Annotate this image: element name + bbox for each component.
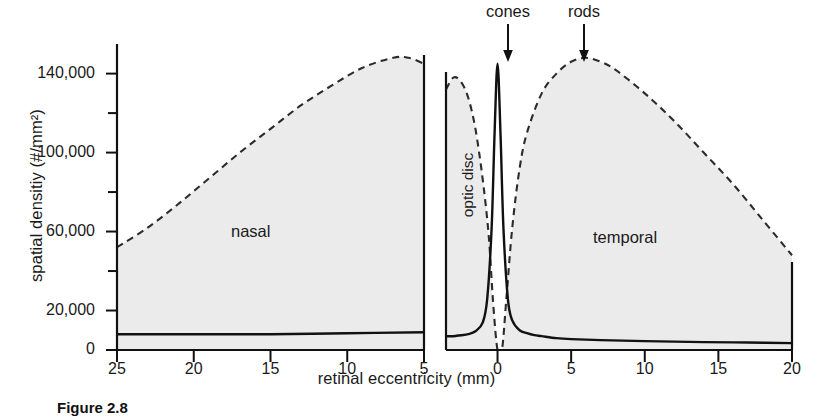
y-tick-label: 20,000 — [0, 301, 95, 319]
temporal-region-label: temporal — [593, 228, 657, 247]
y-tick-label: 60,000 — [0, 222, 95, 240]
cones-pointer-arrow — [503, 24, 513, 62]
y-axis — [106, 44, 117, 350]
rods-pointer-arrow — [579, 24, 589, 62]
y-tick-label: 140,000 — [0, 64, 95, 82]
figure-container: spatial densitiy (#/mm²) retinal eccentr… — [0, 0, 813, 419]
y-tick-label: 0 — [0, 340, 95, 358]
x-tick-label: 10 — [322, 360, 372, 378]
x-tick-label: 15 — [693, 360, 743, 378]
x-tick-label: 5 — [399, 360, 449, 378]
y-tick-label: 100,000 — [0, 143, 95, 161]
nasal-region-label: nasal — [231, 222, 270, 241]
x-tick-label: 0 — [473, 360, 523, 378]
retina-density-chart — [0, 0, 813, 419]
x-tick-label: 20 — [169, 360, 219, 378]
x-tick-label: 10 — [620, 360, 670, 378]
x-tick-label: 5 — [546, 360, 596, 378]
rods-pointer-label: rods — [539, 2, 629, 21]
y-axis-label: spatial densitiy (#/mm²) — [27, 56, 46, 336]
x-tick-label: 25 — [92, 360, 142, 378]
rod-area-temporal — [446, 58, 792, 356]
rod-area-nasal — [117, 57, 424, 350]
x-tick-label: 15 — [246, 360, 296, 378]
figure-caption: Figure 2.8 — [57, 399, 128, 416]
x-tick-label: 20 — [767, 360, 813, 378]
optic-disc-label: optic disc — [459, 115, 477, 255]
